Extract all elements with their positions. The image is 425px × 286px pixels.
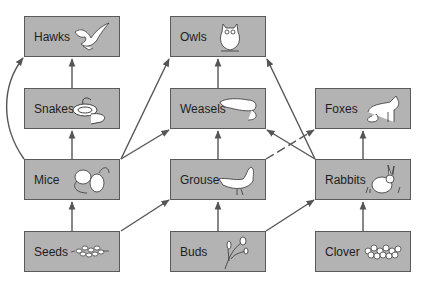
node-label: Owls: [180, 30, 207, 44]
node-owls: Owls: [170, 16, 266, 57]
node-label: Foxes: [325, 102, 358, 116]
node-snakes: Snakes: [24, 88, 120, 129]
node-label: Clover: [325, 245, 360, 259]
seeds-icon: [69, 235, 113, 269]
mice-icon: [69, 163, 113, 197]
arrow-seeds-to-grouse: [121, 200, 169, 231]
weasel-icon: [218, 92, 262, 126]
node-label: Mice: [34, 173, 59, 187]
snake-icon: [69, 92, 113, 126]
hawk-icon: [69, 20, 113, 54]
node-buds: Buds: [170, 231, 266, 272]
node-label: Grouse: [180, 173, 219, 187]
node-mice: Mice: [24, 159, 120, 200]
arrow-mice-to-hawks: [7, 58, 24, 159]
node-grouse: Grouse: [170, 159, 266, 200]
node-hawks: Hawks: [24, 16, 120, 57]
node-rabbits: Rabbits: [315, 159, 411, 200]
grouse-icon: [215, 163, 259, 197]
node-clover: Clover: [315, 231, 411, 272]
node-foxes: Foxes: [315, 88, 411, 129]
node-label: Seeds: [34, 245, 68, 259]
node-seeds: Seeds: [24, 231, 120, 272]
buds-icon: [215, 235, 259, 269]
node-label: Buds: [180, 245, 207, 259]
fox-icon: [360, 92, 404, 126]
node-label: Hawks: [34, 30, 70, 44]
clover-icon: [360, 235, 404, 269]
arrow-buds-to-rabbits: [266, 200, 314, 231]
node-weasels: Weasels: [170, 88, 266, 129]
owl-icon: [215, 20, 245, 54]
rabbit-icon: [360, 163, 404, 197]
